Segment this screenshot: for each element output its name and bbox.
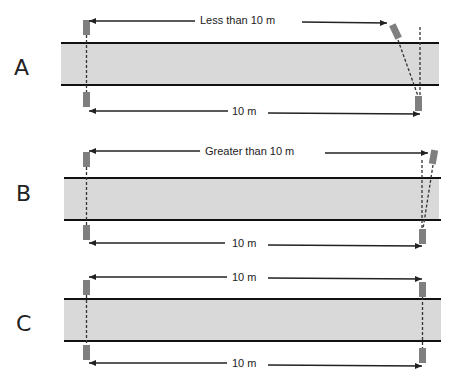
panel-letter: A [14, 55, 29, 80]
bottom-distance-label: 10 m [232, 105, 256, 117]
panel-a: A Less than 10 m 10 m [14, 14, 439, 117]
top-distance-label: 10 m [232, 271, 256, 283]
road [61, 43, 439, 85]
dimension-arrow-right [268, 365, 422, 366]
marker-bottom-left [83, 345, 90, 360]
top-distance-label: Less than 10 m [200, 14, 275, 26]
panel-letter: B [16, 181, 31, 206]
panel-letter: C [16, 311, 31, 336]
road [64, 299, 441, 341]
marker-top-left [83, 152, 90, 167]
diagram-canvas: A Less than 10 m 10 m B Great [0, 0, 458, 382]
marker-bottom-right [419, 348, 426, 363]
dimension-arrow-right [268, 245, 422, 246]
marker-top-right-angled [389, 23, 402, 40]
marker-top-right [419, 282, 426, 297]
marker-bottom-left [83, 225, 90, 240]
marker-top-right-angled [429, 149, 438, 164]
marker-bottom-left [83, 92, 90, 107]
marker-bottom-right [415, 96, 422, 111]
bottom-distance-label: 10 m [232, 237, 256, 249]
marker-bottom-right [419, 229, 426, 244]
bottom-distance-label: 10 m [232, 357, 256, 369]
road [64, 178, 439, 220]
marker-top-left [83, 280, 90, 295]
panel-b: B Greater than 10 m 10 m [16, 145, 441, 249]
top-distance-label: Greater than 10 m [205, 145, 294, 157]
marker-top-left [83, 20, 90, 35]
dimension-arrow-right [302, 22, 387, 23]
dimension-arrow-right [268, 113, 420, 114]
panel-c: C 10 m 10 m [16, 271, 441, 369]
dimension-arrow-right [268, 278, 422, 279]
